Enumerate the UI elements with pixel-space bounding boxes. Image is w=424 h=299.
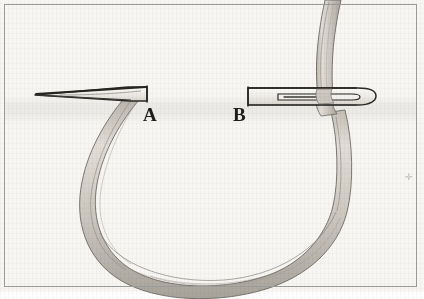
needle-point-left: [35, 86, 147, 102]
scan-speck-artifact: ✛: [405, 174, 412, 181]
thread-crossing-needle: [316, 89, 334, 104]
stitch-diagram-drawing: [0, 0, 424, 299]
thread-upper-tail: [316, 0, 341, 96]
thread-over-needle: [316, 89, 334, 104]
needle-eye-right: [248, 87, 376, 106]
label-point-b: B: [233, 105, 246, 124]
figure-root: A B ✛: [0, 0, 424, 299]
thread-loop-band: [80, 94, 352, 299]
thread-strand-bottom-2: [112, 218, 340, 285]
label-point-a: A: [143, 105, 157, 124]
thread-loop-group: [80, 0, 352, 299]
